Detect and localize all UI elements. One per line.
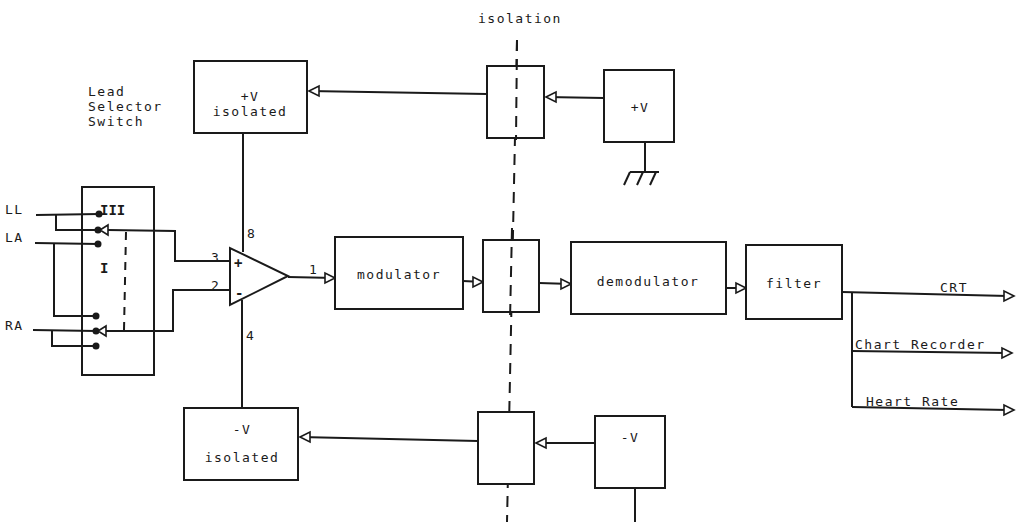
lead-LL-label: LL xyxy=(5,202,24,217)
filter-block: filter xyxy=(746,245,842,319)
neg-isolated-supply-block: -V isolated xyxy=(184,408,298,480)
ecg-isolation-block-diagram: isolation Lead Selector Switch III I LL … xyxy=(0,0,1021,522)
svg-text:Lead: Lead xyxy=(88,84,125,99)
pos-isolated-feed-line xyxy=(309,91,487,94)
svg-text:isolated: isolated xyxy=(205,450,280,465)
arrow-icon xyxy=(736,283,746,293)
pos-supply-block: +V xyxy=(604,70,674,142)
svg-text:demodulator: demodulator xyxy=(597,274,700,289)
svg-text:Switch: Switch xyxy=(88,114,144,129)
isolation-label: isolation xyxy=(478,11,562,26)
svg-text:+V: +V xyxy=(241,89,260,104)
output-heart-rate-label: Heart Rate xyxy=(866,394,959,409)
pos-isolated-supply-block: +V isolated xyxy=(194,61,307,133)
neg-isolation-transformer xyxy=(478,412,534,484)
op-amp-plus: + xyxy=(234,255,242,271)
arrow-icon xyxy=(309,86,319,96)
pin-2-label: 2 xyxy=(211,278,219,293)
arrow-icon xyxy=(1002,348,1012,358)
arrow-icon xyxy=(325,273,335,283)
arrow-icon xyxy=(300,432,310,442)
arrow-icon xyxy=(536,438,546,448)
pin-8-label: 8 xyxy=(247,226,255,241)
neg-isolated-feed-line xyxy=(300,437,478,441)
svg-text:+V: +V xyxy=(631,100,650,115)
lead-RA-label: RA xyxy=(5,318,24,333)
svg-text:Selector: Selector xyxy=(88,99,163,114)
lead-LA-label: LA xyxy=(5,230,24,245)
svg-text:-V: -V xyxy=(233,422,252,437)
arrow-icon xyxy=(546,92,556,102)
arrow-icon xyxy=(561,279,571,289)
pin-4-label: 4 xyxy=(246,328,254,343)
ground-icon xyxy=(624,142,659,185)
op-amp: + - 3 2 8 4 1 xyxy=(211,226,317,343)
position-I-label: I xyxy=(100,260,108,276)
lead-selector-label: Lead Selector Switch xyxy=(88,84,163,129)
neg-supply-block: -V xyxy=(595,416,665,488)
demodulator-block: demodulator xyxy=(571,242,726,314)
svg-text:filter: filter xyxy=(766,276,822,291)
output-crt-label: CRT xyxy=(940,280,968,295)
svg-text:modulator: modulator xyxy=(357,267,441,282)
op-amp-minus: - xyxy=(235,285,243,301)
pin-3-label: 3 xyxy=(211,250,219,265)
arrow-icon xyxy=(473,277,483,287)
svg-text:-V: -V xyxy=(621,430,640,445)
output-chart-recorder-label: Chart Recorder xyxy=(855,337,986,352)
position-III-label: III xyxy=(100,202,125,218)
arrow-icon xyxy=(1004,405,1014,415)
svg-text:isolated: isolated xyxy=(213,104,288,119)
modulator-block: modulator xyxy=(335,237,463,309)
pin-1-label: 1 xyxy=(309,262,317,277)
arrow-icon xyxy=(1004,291,1014,301)
